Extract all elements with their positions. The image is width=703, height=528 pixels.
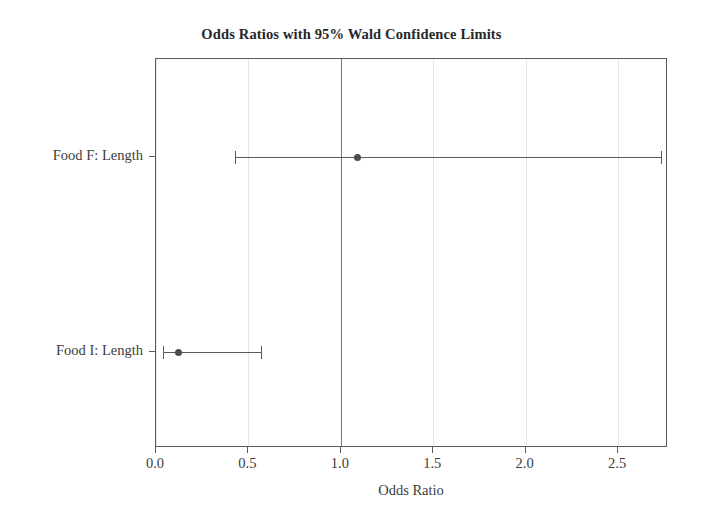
upper-confidence-cap xyxy=(261,346,262,359)
confidence-interval-line xyxy=(235,157,660,158)
upper-confidence-cap xyxy=(661,151,662,164)
y-axis-tick-mark xyxy=(149,351,155,352)
x-axis-tick-label: 2.5 xyxy=(587,455,647,472)
gridline xyxy=(156,59,157,446)
gridline xyxy=(248,59,249,446)
x-axis-tick-mark xyxy=(340,447,341,453)
lower-confidence-cap xyxy=(163,346,164,359)
x-axis-tick-mark xyxy=(432,447,433,453)
x-axis-tick-mark xyxy=(155,447,156,453)
x-axis-tick-label: 1.0 xyxy=(310,455,370,472)
x-axis-tick-mark xyxy=(525,447,526,453)
y-axis-category-label: Food F: Length xyxy=(0,147,143,164)
x-axis-tick-label: 0.0 xyxy=(125,455,185,472)
x-axis-tick-label: 0.5 xyxy=(217,455,277,472)
page-title: Odds Ratios with 95% Wald Confidence Lim… xyxy=(0,26,703,43)
gridline xyxy=(433,59,434,446)
x-axis-tick-mark xyxy=(617,447,618,453)
y-axis-tick-mark xyxy=(149,156,155,157)
reference-line xyxy=(341,59,342,446)
x-axis-tick-mark xyxy=(247,447,248,453)
odds-ratio-point-marker xyxy=(175,349,182,356)
lower-confidence-cap xyxy=(235,151,236,164)
y-axis-category-label: Food I: Length xyxy=(0,342,143,359)
gridline xyxy=(526,59,527,446)
forest-plot-figure: Odds Ratios with 95% Wald Confidence Lim… xyxy=(0,0,703,528)
gridline xyxy=(618,59,619,446)
plot-area xyxy=(155,58,667,447)
x-axis-tick-label: 1.5 xyxy=(402,455,462,472)
x-axis-title: Odds Ratio xyxy=(155,482,667,499)
odds-ratio-point-marker xyxy=(354,154,361,161)
x-axis-tick-label: 2.0 xyxy=(495,455,555,472)
